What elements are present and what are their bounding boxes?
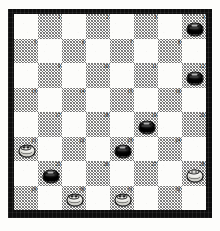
square-number-label: 10 — [104, 63, 109, 69]
board-square-light-r8c4 — [86, 186, 110, 211]
board-square-10[interactable]: 10 — [86, 63, 110, 88]
board-square-12[interactable]: 12 — [182, 63, 206, 88]
piece-marking-secondary — [46, 174, 54, 175]
board-square-17[interactable]: 17 — [38, 112, 62, 137]
piece-marking-secondary — [195, 171, 197, 173]
piece-marking-secondary — [75, 196, 77, 198]
board-square-11[interactable]: 11 — [134, 63, 158, 88]
board-square-14[interactable]: 14 — [62, 88, 86, 113]
board-frame: 1234567891011121314151617181920212223242… — [8, 9, 212, 218]
board-square-5[interactable]: 5 — [14, 39, 38, 64]
square-number-label: 27 — [152, 161, 157, 167]
board-square-18[interactable]: 18 — [86, 112, 110, 137]
piece-marking — [119, 147, 125, 149]
board-square-light-r8c6 — [134, 186, 158, 211]
board-square-2[interactable]: 2 — [86, 14, 110, 39]
board-square-light-r6c8 — [182, 137, 206, 162]
board-square-3[interactable]: 3 — [134, 14, 158, 39]
board-square-light-r5c7 — [158, 112, 182, 137]
board-square-light-r1c7 — [158, 14, 182, 39]
piece-marking-secondary — [118, 150, 126, 151]
black-checker-piece[interactable] — [115, 145, 130, 156]
piece-marking-secondary — [142, 125, 150, 126]
square-number-label: 7 — [130, 39, 133, 45]
board-square-light-r8c8 — [182, 186, 206, 211]
black-checker-piece[interactable] — [187, 22, 202, 33]
board-square-8[interactable]: 8 — [158, 39, 182, 64]
square-number-label: 25 — [56, 161, 61, 167]
board-square-9[interactable]: 9 — [38, 63, 62, 88]
square-number-label: 12 — [200, 63, 205, 69]
board-square-light-r2c6 — [134, 39, 158, 64]
board-square-light-r1c5 — [110, 14, 134, 39]
board-square-light-r6c4 — [86, 137, 110, 162]
board-square-25[interactable]: 25 — [38, 161, 62, 186]
black-checker-piece[interactable] — [139, 120, 154, 131]
white-checker-piece[interactable] — [19, 145, 34, 156]
piece-marking — [191, 171, 193, 173]
square-number-label: 20 — [200, 112, 205, 118]
square-number-label: 22 — [80, 137, 85, 143]
board-square-22[interactable]: 22 — [62, 137, 86, 162]
board-square-light-r2c4 — [86, 39, 110, 64]
square-number-label: 6 — [82, 39, 85, 45]
white-checker-piece[interactable] — [115, 194, 130, 205]
black-checker-piece[interactable] — [187, 71, 202, 82]
board-square-20[interactable]: 20 — [182, 112, 206, 137]
board-square-16[interactable]: 16 — [158, 88, 182, 113]
board-square-24[interactable]: 24 — [158, 137, 182, 162]
square-number-label: 5 — [34, 39, 37, 45]
board-square-30[interactable]: 30 — [62, 186, 86, 211]
square-number-label: 2 — [106, 14, 109, 20]
board-square-light-r5c5 — [110, 112, 134, 137]
board-square-29[interactable]: 29 — [14, 186, 38, 211]
piece-marking-secondary — [190, 27, 198, 28]
board-square-28[interactable]: 28 — [182, 161, 206, 186]
white-checker-piece[interactable] — [187, 169, 202, 180]
piece-marking-secondary — [123, 196, 125, 198]
piece-marking-secondary — [190, 76, 198, 77]
board-square-light-r2c2 — [38, 39, 62, 64]
square-number-label: 3 — [154, 14, 157, 20]
white-checker-piece[interactable] — [67, 194, 82, 205]
board-square-4[interactable]: 4 — [182, 14, 206, 39]
black-checker-piece[interactable] — [43, 169, 58, 180]
board-square-31[interactable]: 31 — [110, 186, 134, 211]
board-square-19[interactable]: 19 — [134, 112, 158, 137]
board-square-light-r6c2 — [38, 137, 62, 162]
square-number-label: 13 — [32, 88, 37, 94]
square-number-label: 15 — [128, 88, 133, 94]
board-square-light-r4c8 — [182, 88, 206, 113]
board-square-27[interactable]: 27 — [134, 161, 158, 186]
board-square-light-r5c1 — [14, 112, 38, 137]
board-square-32[interactable]: 32 — [158, 186, 182, 211]
board-square-light-r3c5 — [110, 63, 134, 88]
board-square-6[interactable]: 6 — [62, 39, 86, 64]
board-square-21[interactable]: 21 — [14, 137, 38, 162]
square-number-label: 23 — [128, 137, 133, 143]
board-square-26[interactable]: 26 — [86, 161, 110, 186]
square-number-label: 17 — [56, 112, 61, 118]
piece-marking — [191, 73, 197, 75]
board-square-light-r4c2 — [38, 88, 62, 113]
piece-marking — [23, 147, 25, 149]
square-number-label: 26 — [104, 161, 109, 167]
piece-marking — [119, 196, 121, 198]
square-number-label: 28 — [200, 161, 205, 167]
checkers-board-grid: 1234567891011121314151617181920212223242… — [14, 14, 206, 210]
board-square-23[interactable]: 23 — [110, 137, 134, 162]
square-number-label: 31 — [128, 186, 133, 192]
square-number-label: 11 — [152, 63, 157, 69]
board-square-15[interactable]: 15 — [110, 88, 134, 113]
board-square-7[interactable]: 7 — [110, 39, 134, 64]
square-number-label: 19 — [152, 112, 157, 118]
board-square-light-r7c5 — [110, 161, 134, 186]
board-square-light-r1c3 — [62, 14, 86, 39]
board-square-light-r6c6 — [134, 137, 158, 162]
board-square-light-r4c6 — [134, 88, 158, 113]
board-square-1[interactable]: 1 — [38, 14, 62, 39]
board-square-light-r3c1 — [14, 63, 38, 88]
board-square-13[interactable]: 13 — [14, 88, 38, 113]
square-number-label: 8 — [178, 39, 181, 45]
square-number-label: 16 — [176, 88, 181, 94]
